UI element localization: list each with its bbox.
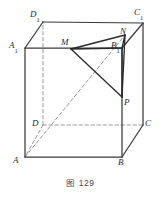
label-D: D xyxy=(32,119,39,128)
edge-D-A-dashed xyxy=(25,125,43,157)
label-N: N xyxy=(120,27,126,36)
label-C1: C1 xyxy=(134,8,143,17)
label-A: A xyxy=(13,156,19,165)
edge-B-C xyxy=(122,125,143,157)
edge-D1-A1 xyxy=(25,22,43,48)
label-P: P xyxy=(124,98,130,107)
label-C: C xyxy=(145,119,151,128)
label-B1: B1 xyxy=(111,41,120,50)
edge-C1-D1 xyxy=(43,22,143,23)
label-B: B xyxy=(118,158,124,167)
figure-container: D1 C1 A1 B1 M N P D C A B 图 129 xyxy=(0,0,161,202)
label-D1: D1 xyxy=(30,10,40,19)
cube-diagram-svg xyxy=(0,0,161,202)
figure-caption: 图 129 xyxy=(0,178,161,188)
label-A1: A1 xyxy=(9,41,18,50)
segment-M-P xyxy=(71,49,122,97)
label-M: M xyxy=(61,38,69,47)
